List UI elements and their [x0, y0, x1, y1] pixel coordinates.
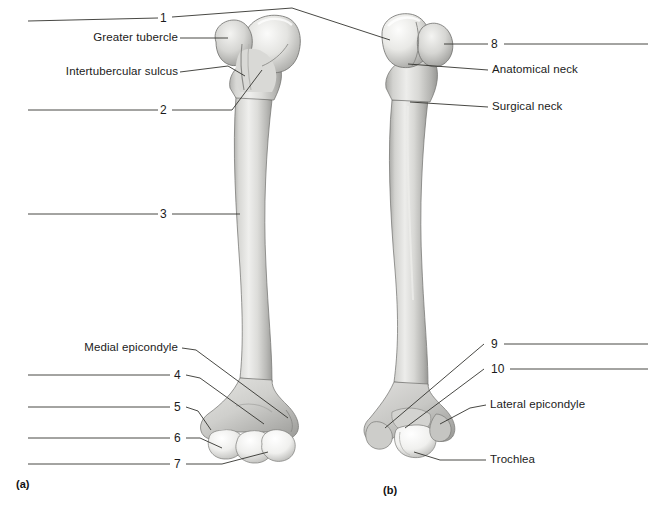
label-blank-10[interactable]: 10	[491, 363, 505, 375]
label-blank-6[interactable]: 6	[174, 432, 181, 444]
panel-id-a: (a)	[16, 478, 29, 490]
label-blank-2[interactable]: 2	[160, 104, 167, 116]
label-blank-4[interactable]: 4	[174, 369, 181, 381]
panel-id-b: (b)	[383, 484, 397, 496]
leader-lateral-epicondyle-b	[470, 405, 486, 408]
label-medial-epicondyle: Medial epicondyle	[82, 342, 178, 354]
leader-blank-1-b	[292, 8, 390, 40]
label-anatomical-neck: Anatomical neck	[492, 64, 578, 76]
leader-blank-5-a	[186, 407, 198, 411]
label-blank-5[interactable]: 5	[174, 401, 181, 413]
leader-blank-1-rule	[28, 18, 158, 21]
humerus-posterior	[364, 14, 455, 458]
label-blank-9[interactable]: 9	[491, 338, 498, 350]
humerus-labeling-figure: 1 Greater tubercle Intertubercular sulcu…	[0, 0, 663, 509]
leader-blank-4-a	[186, 375, 200, 378]
label-greater-tubercle: Greater tubercle	[80, 32, 178, 44]
label-blank-3[interactable]: 3	[160, 208, 167, 220]
label-trochlea: Trochlea	[490, 454, 535, 466]
humerus-anterior	[201, 15, 301, 463]
label-blank-7[interactable]: 7	[174, 458, 181, 470]
label-lateral-epicondyle: Lateral epicondyle	[490, 399, 585, 411]
leader-intertubercular-a	[180, 66, 228, 72]
label-blank-1[interactable]: 1	[160, 12, 167, 24]
label-intertubercular-sulcus: Intertubercular sulcus	[50, 66, 178, 78]
leader-medial-epicondyle-a	[182, 348, 196, 350]
label-surgical-neck: Surgical neck	[492, 101, 562, 113]
label-blank-8[interactable]: 8	[491, 38, 498, 50]
